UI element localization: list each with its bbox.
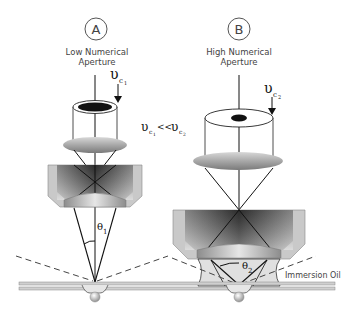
panel-b-nu-symbol: υ <box>264 80 273 96</box>
numerical-aperture-diagram: A Low Numerical Aperture υ c 1 <box>0 0 357 317</box>
comparison-right-subsub: 2 <box>183 132 186 137</box>
comparison-right-symbol: υ <box>171 120 178 134</box>
panel-a-angle-arc <box>84 241 95 244</box>
panel-b-title-line2: Aperture <box>220 57 257 67</box>
panel-b-specimen <box>234 292 244 302</box>
comparison-left-subsub: 1 <box>153 132 156 137</box>
panel-b-nu-sub: c <box>273 91 277 99</box>
panel-a-dashed-ray-left <box>16 256 93 281</box>
microscope-slide <box>19 282 335 302</box>
comparison-operator: << <box>157 122 172 132</box>
panel-a-annulus-stop <box>78 103 112 112</box>
panel-a-nu-subsub: 1 <box>124 80 127 86</box>
panel-a-nu-symbol: υ <box>110 66 119 82</box>
panel-a-title-line1: Low Numerical <box>66 47 129 57</box>
panel-b-nu-subsub: 2 <box>278 94 281 100</box>
panel-b-letter: B <box>235 22 244 37</box>
immersion-oil-label: Immersion Oil <box>285 271 341 280</box>
panel-b-condenser-lens <box>193 152 283 170</box>
panel-a-specimen <box>90 292 100 302</box>
panel-a-condenser-lens <box>63 137 127 153</box>
comparison-left-symbol: υ <box>141 120 148 134</box>
panel-a-arrow-head <box>114 96 122 103</box>
panel-b-angle-sub: 2 <box>248 267 252 275</box>
panel-a: A Low Numerical Aperture υ c 1 <box>16 18 168 283</box>
panel-a-angle-sub: 1 <box>103 228 107 236</box>
panel-a-nu-sub: c <box>119 77 123 85</box>
panel-a-dashed-ray-right <box>97 256 168 281</box>
panel-a-letter: A <box>92 22 101 37</box>
comparison-label: υ c 1 << υ c 2 <box>141 120 186 137</box>
panel-b-annulus-stop <box>231 115 247 122</box>
panel-b-title-line1: High Numerical <box>206 47 272 57</box>
panel-b: B High Numerical Aperture υ c 2 <box>172 18 341 286</box>
